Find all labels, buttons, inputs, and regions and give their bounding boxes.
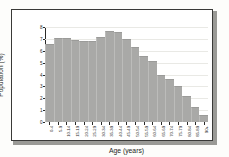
x-axis-tick-label: 90+ (204, 126, 209, 133)
bar (71, 40, 80, 122)
x-axis-tick-label: 85-89 (195, 126, 200, 137)
x-axis-tick-mark (66, 122, 67, 125)
x-axis-tick-mark (152, 122, 153, 125)
x-axis-tick-label: 55-59 (144, 126, 149, 137)
x-axis-tick: 10-14 (62, 122, 71, 125)
bar (131, 47, 140, 122)
x-axis-tick-label: 70-74 (169, 126, 174, 137)
x-axis-tick-mark (187, 122, 188, 125)
bar (96, 37, 105, 123)
x-axis-tick-mark (109, 122, 110, 125)
x-axis-tick-mark (195, 122, 196, 125)
x-axis-tick: 65-69 (157, 122, 166, 125)
x-axis-tick-label: 25-29 (92, 126, 97, 137)
x-axis-tick-mark (135, 122, 136, 125)
x-axis-tick-label: 65-69 (161, 126, 166, 137)
x-axis-tick-mark (49, 122, 50, 125)
x-axis-tick: 80-84 (182, 122, 191, 125)
x-axis-tick: 40-44 (114, 122, 123, 125)
x-axis-tick-mark (178, 122, 179, 125)
x-axis-tick-label: 35-39 (109, 126, 114, 137)
x-axis-tick: 50-54 (131, 122, 140, 125)
bar (114, 32, 123, 122)
bar (45, 44, 54, 122)
bar (199, 115, 208, 122)
x-axis-tick-mark (101, 122, 102, 125)
bar (79, 41, 88, 122)
x-axis-tick-mark (118, 122, 119, 125)
chart-page: Population (%) 012345678 0-45-910-1415-1… (0, 0, 229, 157)
x-axis-tick-mark (126, 122, 127, 125)
x-axis-tick: 5-9 (54, 122, 63, 125)
x-axis-tick: 20-24 (79, 122, 88, 125)
bar (182, 96, 191, 122)
bar (139, 56, 148, 123)
bar (165, 79, 174, 122)
x-axis-tick: 45-49 (122, 122, 131, 125)
x-axis-tick: 90+ (199, 122, 208, 125)
x-axis-tick: 35-39 (105, 122, 114, 125)
bar (88, 41, 97, 122)
x-axis-tick-label: 40-44 (118, 126, 123, 137)
x-axis-tick-label: 75-79 (178, 126, 183, 137)
x-axis-tick-mark (161, 122, 162, 125)
x-axis-tick-label: 30-34 (101, 126, 106, 137)
x-axis-tick-label: 50-54 (135, 126, 140, 137)
x-axis-tick: 60-64 (148, 122, 157, 125)
x-axis-tick-mark (204, 122, 205, 125)
x-axis-tick-mark (144, 122, 145, 125)
plot-area: 012345678 0-45-910-1415-1920-2425-2930-3… (45, 27, 208, 122)
x-axis-tick-label: 0-4 (49, 126, 54, 132)
bar (105, 31, 114, 122)
bar-series (45, 27, 208, 122)
x-axis-tick-label: 10-14 (66, 126, 71, 137)
x-axis-tick-mark (58, 122, 59, 125)
bar (62, 38, 71, 122)
y-axis-title: Population (%) (0, 28, 4, 123)
x-axis-tick-mark (84, 122, 85, 125)
x-axis-tick-mark (92, 122, 93, 125)
x-axis-tick-label: 20-24 (84, 126, 89, 137)
x-axis-ticks: 0-45-910-1415-1920-2425-2930-3435-3940-4… (45, 122, 208, 125)
bar (54, 38, 63, 122)
bar (157, 75, 166, 123)
x-axis-tick-mark (75, 122, 76, 125)
x-axis-tick: 25-29 (88, 122, 97, 125)
x-axis-tick-label: 5-9 (58, 126, 63, 132)
x-axis-tick: 85-89 (191, 122, 200, 125)
bar (148, 61, 157, 122)
bar (174, 86, 183, 122)
bar (191, 107, 200, 122)
x-axis-tick-mark (169, 122, 170, 125)
x-axis-tick: 0-4 (45, 122, 54, 125)
x-axis-tick-label: 60-64 (152, 126, 157, 137)
x-axis-tick-label: 45-49 (126, 126, 131, 137)
x-axis-tick-label: 80-84 (187, 126, 192, 137)
x-axis-tick: 70-74 (165, 122, 174, 125)
figure-frame: Population (%) 012345678 0-45-910-1415-1… (11, 9, 213, 141)
x-axis-title: Age (years) (45, 147, 208, 154)
x-axis-tick: 15-19 (71, 122, 80, 125)
x-axis-tick: 30-34 (96, 122, 105, 125)
x-axis-tick-label: 15-19 (75, 126, 80, 137)
bar (122, 39, 131, 122)
x-axis-tick: 75-79 (174, 122, 183, 125)
x-axis-tick: 55-59 (139, 122, 148, 125)
